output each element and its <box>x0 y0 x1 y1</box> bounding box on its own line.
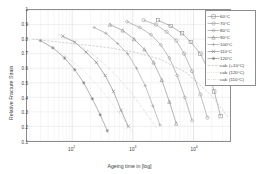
y-axis-label: Relative Fracture Strain <box>8 66 14 121</box>
legend-item: 80°C <box>207 27 254 34</box>
legend-label: 80°C <box>220 27 230 34</box>
legend-item: 100°C <box>207 41 254 48</box>
y-tick-label: 0.8 <box>14 36 28 41</box>
legend-label: 60°C <box>220 13 230 20</box>
legend-marker-icon <box>207 55 220 62</box>
legend-marker-icon <box>207 62 220 69</box>
legend-item: 110°C <box>207 48 254 55</box>
legend-marker-icon <box>207 48 220 55</box>
x-axis-label: Ageing time in [log] <box>0 163 259 169</box>
legend-label: 120°C <box>220 55 232 62</box>
y-tick-label: 1 <box>14 7 28 12</box>
y-tick-label: 0.6 <box>14 66 28 71</box>
series-5 <box>61 35 130 129</box>
legend-item: calc (+10°C) <box>207 62 254 69</box>
legend-marker-icon <box>207 20 220 27</box>
y-tick-label: 0.2 <box>14 125 28 130</box>
legend-label: calc (+10°C) <box>220 62 244 69</box>
legend-item: 70°C <box>207 20 254 27</box>
legend-label: calc (120°C) <box>220 69 244 76</box>
legend-marker-icon <box>207 13 220 20</box>
legend-label: 110°C <box>220 48 232 55</box>
legend-marker-icon <box>207 27 220 34</box>
chart-legend: 60°C70°C80°C90°C100°C110°C120°Ccalc (+10… <box>205 10 256 86</box>
legend-marker-icon <box>207 41 220 48</box>
chart-figure: 102103104 0.10.20.30.40.50.60.70.80.91 A… <box>0 0 259 174</box>
legend-item: calc (110°C) <box>207 76 254 83</box>
x-tick-label: 103 <box>129 145 136 152</box>
legend-item: 90°C <box>207 34 254 41</box>
legend-label: 100°C <box>220 41 232 48</box>
legend-marker-icon <box>207 34 220 41</box>
series-3 <box>108 23 178 125</box>
series-4 <box>92 26 161 127</box>
plot-area <box>26 9 231 142</box>
y-tick-label: 0.1 <box>14 140 28 145</box>
y-tick-label: 0.3 <box>14 110 28 115</box>
legend-marker-icon <box>207 76 220 83</box>
x-tick-label: 102 <box>68 145 75 152</box>
legend-item: calc (120°C) <box>207 69 254 76</box>
series-8 <box>37 39 133 132</box>
legend-item: 60°C <box>207 13 254 20</box>
series-7 <box>32 39 228 118</box>
legend-label: 90°C <box>220 34 230 41</box>
x-tick-label: 104 <box>191 145 198 152</box>
y-tick-label: 0.7 <box>14 51 28 56</box>
legend-item: 120°C <box>207 55 254 62</box>
legend-label: calc (110°C) <box>220 76 244 83</box>
data-series-layer <box>27 10 230 141</box>
legend-label: 70°C <box>220 20 230 27</box>
series-6 <box>39 39 109 133</box>
series-9 <box>59 35 157 128</box>
y-tick-label: 0.9 <box>14 21 28 26</box>
y-tick-label: 0.4 <box>14 95 28 100</box>
y-tick-label: 0.5 <box>14 80 28 85</box>
legend-marker-icon <box>207 69 220 76</box>
